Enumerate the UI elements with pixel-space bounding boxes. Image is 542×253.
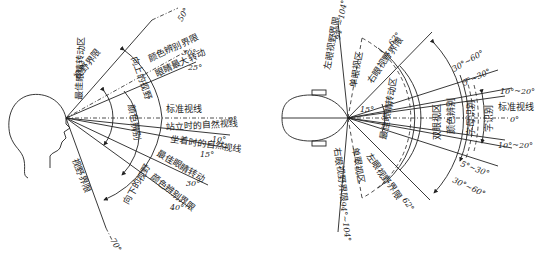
binocular-label: 双眼视区 [431, 104, 442, 140]
angle-40: 40° [169, 203, 184, 212]
visual-field-diagram: 视野界限 50° 颜色辨别界限 30° 眼睛最大转动 25° 向上的视野 最佳眼… [0, 0, 542, 253]
color-label-h: 颜色辨别 [445, 98, 456, 134]
angle-5-30-top: 5°~30° [461, 67, 492, 88]
vertical-field-diagram: 视野界限 50° 颜色辨别界限 30° 眼睛最大转动 25° 向上的视野 最佳眼… [9, 6, 243, 253]
horizontal-field-diagram: 左眼视野界限 94°~104° 单眼视区 右眼视野界限 62° 最佳眼睛转动区 … [282, 0, 535, 242]
angle-25: 25° [187, 63, 202, 72]
angle-0-h: 0° [510, 115, 519, 124]
head-profile-icon [9, 94, 70, 178]
best-eye-zone-label: 最佳眼睛转动区 [73, 37, 86, 100]
angle-10-20-bottom: 10°~20° [498, 141, 533, 150]
angle-94-104-top: 94°~104° [333, 0, 349, 40]
standard-sightline-label-h: 标准视线 [498, 101, 534, 112]
standard-sightline-label: 标准视线 [166, 103, 202, 114]
best-eye-zone-label-h: 最佳眼睛转动区 [377, 76, 399, 140]
downward-view-label: 向下的视野 [120, 162, 152, 206]
angle-30-down: 30° [186, 179, 200, 188]
word-label: 字母识别 [465, 100, 476, 136]
angle-70: 70° [108, 237, 123, 253]
angle-15: 15° [200, 150, 214, 159]
mono-top-label: 单眼视区 [347, 51, 364, 88]
angle-62-bottom: 62° [400, 196, 416, 213]
angle-30-60-bottom: 30°~60° [451, 176, 487, 199]
right-eye-limit-top-label: 右眼视野界限 [365, 35, 405, 86]
mono-bottom-label: 单眼视区 [350, 146, 367, 183]
angle-50: 50° [176, 6, 191, 23]
right-eye-limit-bottom-label: 右眼视野界限 [332, 147, 350, 202]
left-eye-limit-bottom-label: 左眼视野界限 [364, 151, 404, 202]
angle-94-104-bottom: 94°~104° [338, 201, 353, 242]
angle-10-20-top: 10°~20° [500, 87, 535, 96]
field-limit-lower-label: 视野界限 [70, 157, 94, 194]
char-label: 字识别 [483, 105, 494, 132]
angle-15-h: 15° [360, 105, 374, 114]
standing-sightline-label: 站立时的自然视线 [166, 117, 238, 132]
color-zone-label: 颜色辨别 [126, 103, 143, 140]
